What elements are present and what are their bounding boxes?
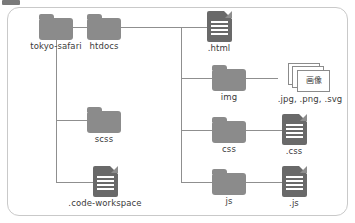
directory-tree-diagram: tokyo-safari htdocs scss .code-workspace [0,0,355,223]
node-code-workspace[interactable]: .code-workspace [66,166,144,209]
node-css-file[interactable]: .css [255,114,333,157]
file-icon [207,11,232,42]
file-icon [282,114,307,145]
folder-icon [212,65,246,91]
node-html[interactable]: .html [180,11,258,54]
node-label: .code-workspace [66,198,144,209]
node-label: .html [180,43,258,54]
folder-icon [212,169,246,195]
node-label: scss [65,134,143,145]
image-stack-icon: 画像 [288,63,332,93]
node-htdocs[interactable]: htdocs [65,14,143,52]
node-scss[interactable]: scss [65,107,143,145]
folder-icon [87,14,121,40]
node-img[interactable]: img [190,65,268,103]
node-label: htdocs [65,41,143,52]
file-icon [93,166,118,197]
image-card-label: 画像 [306,77,322,85]
node-label: .js [255,198,333,209]
node-js-file[interactable]: .js [255,166,333,209]
node-label: .css [255,146,333,157]
node-images[interactable]: 画像 .jpg, .png, .svg [270,63,350,105]
node-label: img [190,92,268,103]
node-label: .jpg, .png, .svg [270,94,350,105]
folder-icon [212,117,246,143]
folder-icon [87,107,121,133]
file-icon [282,166,307,197]
